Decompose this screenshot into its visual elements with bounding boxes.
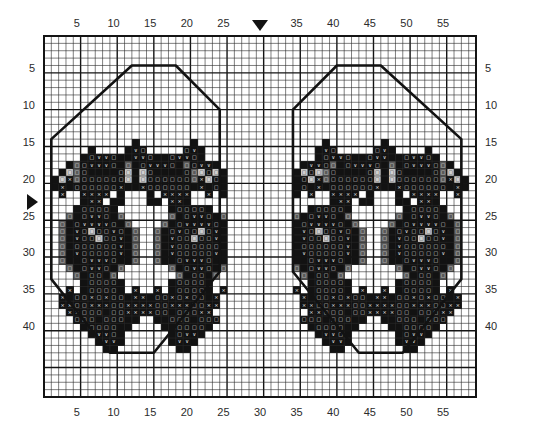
y-tick-right-25: 25 <box>485 211 507 222</box>
pattern-cell: × <box>308 191 316 199</box>
pattern-cell: □ <box>212 272 220 280</box>
pattern-cell <box>432 323 440 331</box>
y-tick-right-35: 35 <box>485 284 507 295</box>
pattern-cell <box>110 345 118 353</box>
y-tick-left-10: 10 <box>13 100 35 111</box>
y-tick-right-20: 20 <box>485 174 507 185</box>
pattern-cell: × <box>220 286 228 294</box>
y-tick-right-15: 15 <box>485 137 507 148</box>
x-tick-bottom-50: 50 <box>394 407 418 418</box>
pattern-cell <box>293 191 301 199</box>
pattern-cell <box>190 338 198 346</box>
x-tick-bottom-40: 40 <box>321 407 345 418</box>
pattern-cell <box>344 338 352 346</box>
x-tick-bottom-15: 15 <box>138 407 162 418</box>
pattern-cell: × <box>454 191 462 199</box>
pattern-cell <box>366 198 374 206</box>
pattern-cell: □ <box>212 316 220 324</box>
x-tick-top-55: 55 <box>431 18 455 29</box>
pattern-cell <box>417 338 425 346</box>
y-tick-left-5: 5 <box>13 63 35 74</box>
x-tick-bottom-55: 55 <box>431 407 455 418</box>
pattern-cell <box>461 183 469 191</box>
pattern-cell: × <box>212 301 220 309</box>
y-tick-left-40: 40 <box>13 321 35 332</box>
x-tick-bottom-10: 10 <box>102 407 126 418</box>
y-tick-right-10: 10 <box>485 100 507 111</box>
pattern-grid[interactable]: ∨∨□□□□∨∨□□∨∨∨∨□□∨∨∨∨□□□□∨∨∨∨□□□□□□∨∨∨∨∨∨… <box>44 36 476 397</box>
pattern-cell: □ <box>117 264 125 272</box>
pattern-cell: □ <box>439 272 447 280</box>
pattern-cell: □ <box>344 264 352 272</box>
pattern-cell: × <box>373 183 381 191</box>
x-tick-bottom-30: 30 <box>248 407 272 418</box>
pattern-cell <box>410 345 418 353</box>
down-triangle-marker <box>252 20 268 31</box>
pattern-cell <box>125 323 133 331</box>
pattern-cell <box>381 183 389 191</box>
pattern-cell: □ <box>454 257 462 265</box>
pattern-cell: × <box>366 309 374 317</box>
pattern-cell <box>403 345 411 353</box>
x-tick-top-50: 50 <box>394 18 418 29</box>
pattern-cell: × <box>315 183 323 191</box>
x-tick-bottom-5: 5 <box>65 407 89 418</box>
x-tick-bottom-35: 35 <box>285 407 309 418</box>
y-tick-right-30: 30 <box>485 247 507 258</box>
x-tick-top-25: 25 <box>211 18 235 29</box>
pattern-cell <box>425 331 433 339</box>
y-tick-left-15: 15 <box>13 137 35 148</box>
pattern-cell <box>117 198 125 206</box>
pattern-cell <box>352 257 360 265</box>
pattern-cell <box>359 316 367 324</box>
y-tick-left-20: 20 <box>13 174 35 185</box>
x-tick-bottom-45: 45 <box>358 407 382 418</box>
y-tick-left-35: 35 <box>13 284 35 295</box>
pattern-cell <box>359 198 367 206</box>
pattern-cell: □ <box>381 257 389 265</box>
pattern-cell: □ <box>132 257 140 265</box>
pattern-cell: □ <box>359 257 367 265</box>
x-tick-top-15: 15 <box>138 18 162 29</box>
pattern-cell: □ <box>439 183 447 191</box>
pattern-cell <box>337 345 345 353</box>
pattern-cell: × <box>454 301 462 309</box>
pattern-cell: × <box>205 191 213 199</box>
pattern-cell: □ <box>447 264 455 272</box>
pattern-cell: □ <box>439 316 447 324</box>
pattern-cell: × <box>59 191 67 199</box>
pattern-cell <box>220 191 228 199</box>
y-tick-right-5: 5 <box>485 63 507 74</box>
y-tick-right-40: 40 <box>485 321 507 332</box>
y-tick-left-30: 30 <box>13 247 35 258</box>
pattern-cell: □ <box>220 264 228 272</box>
pattern-cell <box>198 331 206 339</box>
x-tick-top-10: 10 <box>102 18 126 29</box>
pattern-cell <box>132 316 140 324</box>
pattern-cell <box>205 323 213 331</box>
x-tick-top-5: 5 <box>65 18 89 29</box>
pattern-cell <box>352 323 360 331</box>
pattern-cell <box>117 338 125 346</box>
pattern-cell <box>330 345 338 353</box>
pattern-cell <box>183 345 191 353</box>
x-tick-top-40: 40 <box>321 18 345 29</box>
pattern-cell: × <box>447 309 455 317</box>
x-tick-top-35: 35 <box>285 18 309 29</box>
y-tick-left-25: 25 <box>13 211 35 222</box>
cross-stitch-chart: ∨∨□□□□∨∨□□∨∨∨∨□□∨∨∨∨□□□□∨∨∨∨□□□□□□∨∨∨∨∨∨… <box>0 0 554 446</box>
x-tick-bottom-25: 25 <box>211 407 235 418</box>
right-triangle-marker <box>27 194 38 210</box>
x-tick-top-20: 20 <box>175 18 199 29</box>
x-tick-bottom-20: 20 <box>175 407 199 418</box>
pattern-cell <box>154 198 162 206</box>
x-tick-top-45: 45 <box>358 18 382 29</box>
